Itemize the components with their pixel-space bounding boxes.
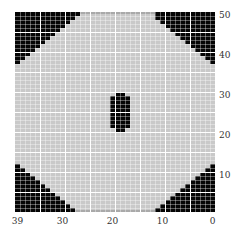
filled-cell [175,208,180,212]
filled-cell [40,40,45,44]
grid-line-vertical [70,12,71,212]
grid-line-horizontal [15,60,215,61]
grid-line-vertical [130,12,131,212]
grid-line-horizontal [15,132,215,133]
grid-line-vertical [140,12,141,212]
partial-cell [150,12,155,14]
filled-cell [15,60,20,64]
grid-line-horizontal [15,180,215,181]
grid-line-vertical [175,12,176,212]
grid-line-horizontal [15,168,215,169]
filled-cell [190,208,195,212]
filled-cell [210,60,215,64]
grid-line-horizontal [15,152,215,153]
filled-cell [20,56,25,60]
filled-cell [50,32,55,36]
grid-line-horizontal [15,48,215,49]
grid-line-vertical [75,12,76,212]
grid-line-vertical [80,12,81,212]
filled-cell [180,208,185,212]
grid-line-vertical [105,12,106,212]
filled-cell [205,208,210,212]
grid-line-horizontal [15,160,215,161]
grid-line-vertical [165,12,166,212]
grid-line-vertical [145,12,146,212]
filled-cell [25,52,30,56]
x-tick-label: 39 [12,216,23,226]
y-tick-label: 40 [219,50,230,60]
grid-line-vertical [60,12,61,212]
grid-line-horizontal [15,88,215,89]
x-tick-label: 20 [107,216,118,226]
grid-line-vertical [150,12,151,212]
filled-cell [160,208,165,212]
filled-cell [170,208,175,212]
grid-line-vertical [45,12,46,212]
grid-line-vertical [160,12,161,212]
grid-line-horizontal [15,136,215,137]
filled-cell [165,208,170,212]
x-tick-label: 30 [57,216,68,226]
filled-cell [35,44,40,48]
y-tick-label: 30 [219,90,230,100]
grid-plot [15,12,215,212]
grid-line-vertical [155,12,156,212]
grid-line-horizontal [15,172,215,173]
grid-line-vertical [90,12,91,212]
grid-line-horizontal [15,84,215,85]
grid-line-horizontal [15,148,215,149]
y-tick-label: 50 [219,10,230,20]
grid-line-vertical [65,12,66,212]
grid-line-vertical [95,12,96,212]
grid-line-horizontal [15,76,215,77]
grid-line-horizontal [15,44,215,45]
grid-line-vertical [170,12,171,212]
filled-cell [195,208,200,212]
grid-line-vertical [85,12,86,212]
grid-line-horizontal [15,72,215,73]
grid-line-horizontal [15,164,215,165]
filled-cell [65,20,70,24]
x-tick-label: 10 [157,216,168,226]
grid-line-horizontal [15,144,215,145]
filled-cell [210,208,215,212]
grid-line-horizontal [15,68,215,69]
grid-line-horizontal [15,176,215,177]
filled-cell [60,24,65,28]
filled-cell [125,124,130,128]
grid-line-horizontal [15,156,215,157]
filled-cell [70,16,75,20]
grid-line-vertical [50,12,51,212]
grid-line-horizontal [15,56,215,57]
filled-cell [30,48,35,52]
filled-cell [120,128,125,132]
x-tick-label: 0 [210,216,216,226]
grid-line-horizontal [15,64,215,65]
grid-line-vertical [100,12,101,212]
partial-cell [150,210,155,212]
grid-line-horizontal [15,52,215,53]
y-tick-label: 10 [219,170,230,180]
grid-line-vertical [180,12,181,212]
grid-line-horizontal [15,80,215,81]
grid-line-horizontal [15,140,215,141]
y-tick-label: 20 [219,130,230,140]
filled-cell [155,208,160,212]
filled-cell [55,28,60,32]
filled-cell [200,208,205,212]
filled-cell [45,36,50,40]
grid-line-vertical [55,12,56,212]
filled-cell [185,208,190,212]
grid-line-vertical [135,12,136,212]
